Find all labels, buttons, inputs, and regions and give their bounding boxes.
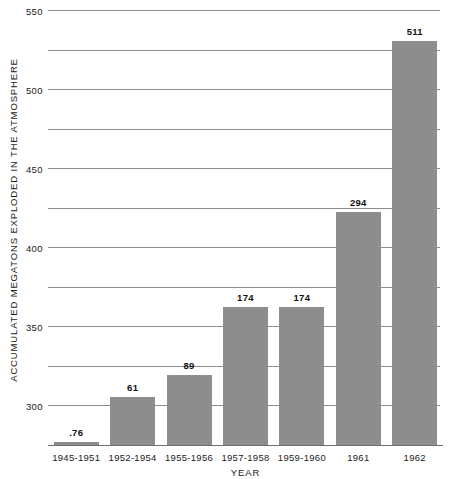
y-tick-label: 450	[26, 164, 43, 175]
bar-value-label: 174	[213, 292, 278, 303]
y-tick-label: 350	[26, 322, 43, 333]
gridline: 450	[48, 89, 440, 90]
bar-chart: ACCUMULATED MEGATONS EXPLODED IN THE ATM…	[0, 0, 451, 479]
x-tick-label: 1962	[381, 452, 449, 463]
bar	[336, 212, 381, 445]
bar-value-label: 89	[157, 360, 222, 371]
plot-area: 050100150200250300350400450500550.761945…	[48, 10, 443, 445]
gridline: 350	[48, 168, 440, 169]
y-tick-label: 550	[26, 6, 43, 17]
y-axis-title: ACCUMULATED MEGATONS EXPLODED IN THE ATM…	[4, 0, 22, 440]
gridline: 250	[48, 247, 440, 248]
bar-value-label: 61	[100, 382, 165, 393]
bar-value-label: 511	[382, 26, 447, 37]
bar	[54, 442, 99, 445]
gridline: 500	[48, 50, 440, 51]
bar	[392, 41, 437, 445]
bar	[223, 307, 268, 445]
gridline: 550	[48, 10, 440, 11]
x-axis-line: 0	[48, 445, 443, 446]
bar	[110, 397, 155, 445]
bar-value-label: 174	[269, 292, 334, 303]
bar	[279, 307, 324, 445]
x-axis-title: YEAR	[48, 467, 443, 478]
bar-value-label: 294	[326, 197, 391, 208]
y-tick-label: 300	[26, 401, 43, 412]
gridline: 200	[48, 287, 440, 288]
y-tick-label: 500	[26, 85, 43, 96]
y-tick-label: 400	[26, 243, 43, 254]
gridline: 400	[48, 129, 440, 130]
bar-value-label: .76	[44, 427, 109, 438]
bar	[167, 375, 212, 445]
